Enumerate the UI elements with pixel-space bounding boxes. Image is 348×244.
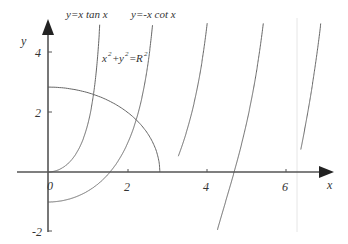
tick-label-ym2: -2	[32, 225, 42, 239]
y-axis-label: y	[20, 34, 27, 48]
svg-text:y: y	[118, 52, 124, 64]
tick-label-0: 0	[47, 179, 53, 193]
circle-curve	[48, 87, 160, 172]
x-axis-label: x	[326, 178, 333, 192]
chart-figure: 0 2 4 6 x 4 2 -2 y y=x tan x y=-x cot x …	[0, 0, 348, 244]
svg-text:R: R	[135, 52, 143, 64]
y-axis-arrow-icon	[42, 19, 54, 35]
tick-label-y2: 2	[35, 106, 41, 120]
tick-label-y4: 4	[35, 46, 41, 60]
tan-curve-branch-1	[48, 25, 100, 172]
plot-area: 0 2 4 6 x 4 2 -2 y y=x tan x y=-x cot x …	[0, 0, 348, 244]
cot-curve-branch-2	[218, 23, 264, 229]
svg-text:x: x	[101, 52, 107, 64]
tan-curve-branch-3	[301, 24, 321, 150]
cot-curve-label: y=-x cot x	[130, 8, 176, 20]
x-axis-arrow-icon	[319, 166, 334, 178]
tick-label-x4: 4	[203, 180, 209, 194]
tan-curve-label: y=x tan x	[65, 8, 108, 20]
svg-text:2: 2	[144, 50, 148, 58]
curves	[48, 23, 321, 230]
tan-curve-branch-2	[178, 23, 207, 156]
circle-equation-label: x 2 + y 2 = R 2	[101, 50, 148, 64]
tick-label-x6: 6	[282, 180, 288, 194]
tick-label-x2: 2	[124, 180, 130, 194]
